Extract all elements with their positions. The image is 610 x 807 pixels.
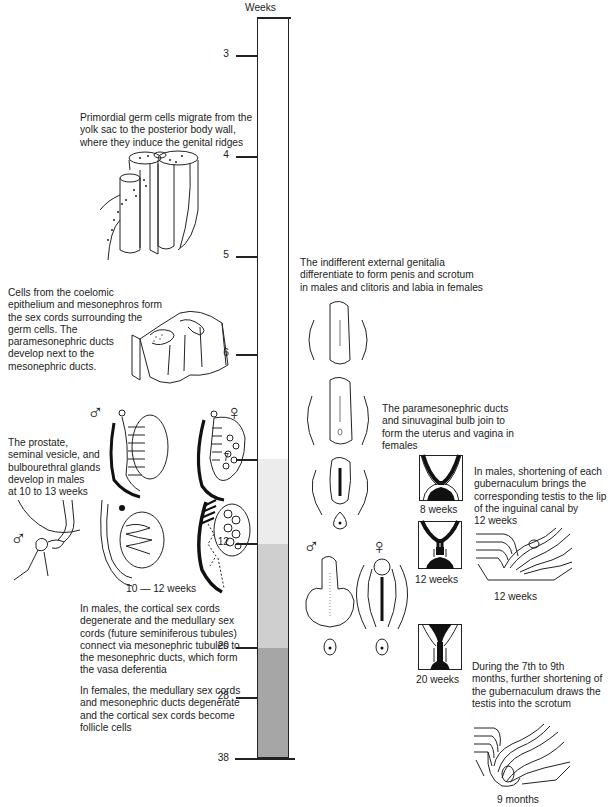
box-caption-12wk: 12 weeks (415, 574, 458, 585)
tick-label-38: 38 (205, 752, 229, 763)
inguinal-12wk-caption: 12 weeks (494, 591, 537, 602)
gubernaculum-caption: In males, shortening of each gubernaculu… (474, 466, 607, 527)
tick-3 (236, 55, 258, 57)
testis-10-12wk-illustration (98, 500, 168, 590)
genital-ridge-illustration (100, 150, 220, 270)
tick-5 (236, 256, 258, 258)
gubernaculum-box-8wk (419, 455, 463, 501)
accessory-glands-illustration (8, 500, 88, 580)
box-caption-20wk: 20 weeks (416, 674, 459, 685)
band-weeks-7-12 (258, 459, 288, 544)
female-cords-caption: In females, the medullary sex cords and … (80, 685, 240, 734)
male-genitalia-illustration (300, 555, 360, 665)
ovary-10-12wk-illustration (188, 500, 258, 595)
tick-6 (236, 354, 258, 356)
accessory-glands-caption: The prostate, seminal vesicle, and bulbo… (8, 437, 100, 498)
timeline-bottom-cap (235, 758, 295, 760)
tick-label-3: 3 (205, 48, 229, 59)
indifferent-genitalia-illustration (300, 300, 375, 515)
uterus-vagina-caption: The paramesonephric ducts and sinuvagina… (382, 403, 514, 452)
box-caption-8wk: 8 weeks (420, 504, 457, 515)
gonads-stage-caption: 10 — 12 weeks (126, 583, 196, 594)
gubernaculum-box-12wk (418, 521, 462, 569)
gonad-section-illustration (130, 305, 230, 390)
indifferent-genitalia-base (330, 512, 350, 532)
female-gonad-7wk-illustration (190, 408, 250, 503)
female-genitalia-illustration (352, 555, 412, 665)
timeline-bar (257, 17, 289, 758)
male-cords-caption: In males, the cortical sex cords degener… (80, 603, 240, 677)
band-weeks-12-20 (258, 544, 288, 648)
descent-9m-caption: 9 months (497, 794, 539, 805)
timeline-unit-label: Weeks (245, 2, 276, 13)
male-gonad-7wk-illustration (100, 405, 175, 500)
tick-4 (236, 156, 258, 158)
band-weeks-20-38 (258, 648, 288, 757)
testis-descent-caption: During the 7th to 9th months, further sh… (472, 661, 602, 710)
timeline-top-cap (257, 17, 291, 19)
germ-cells-caption: Primordial germ cells migrate from the y… (80, 112, 252, 149)
testis-descent-9m-illustration (472, 722, 572, 792)
gubernaculum-box-20wk (418, 624, 462, 670)
external-genitalia-caption: The indifferent external genitalia diffe… (300, 257, 483, 294)
inguinal-canal-12wk-illustration (474, 528, 574, 588)
